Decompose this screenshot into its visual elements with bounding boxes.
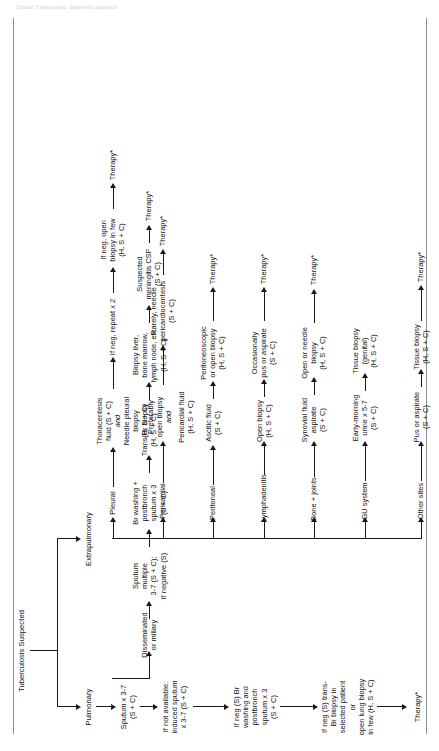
conn-spine-gu (365, 521, 366, 539)
node-d6-therapy: Therapy* (144, 191, 153, 221)
arrow-pl3-pl4 (110, 183, 116, 188)
conn-pl2-pl3 (113, 271, 114, 293)
arrow-p2-p3 (224, 704, 229, 710)
conn-ly0-ly1 (264, 445, 265, 475)
arrow-pe0-pe1 (210, 445, 216, 450)
extrapulmonary-spine (112, 538, 422, 539)
branch-diss-stem-h (149, 655, 150, 679)
trunk-split (57, 539, 58, 707)
arrow-pl0-pl1 (110, 447, 116, 452)
node-pc2: Rarely, needle pericardiocentesis (S + C… (149, 281, 177, 341)
arrow-pl1-pl2 (110, 357, 116, 362)
arrow-pulmonary (76, 704, 81, 710)
conn-pc1-pc2 (163, 349, 164, 385)
figure-page: Tuberculosis Suspected Pulmonary Extrapu… (0, 0, 439, 751)
node-bj1: Synovial fluid aspirate (S + C) (300, 398, 328, 442)
arrow-p1-p2 (153, 704, 158, 710)
conn-pc0-pc1 (163, 445, 164, 483)
conn-bj0-bj1 (314, 445, 315, 477)
arrow-pc0-pc1 (160, 441, 166, 446)
node-pl2: If neg, repeat x 2 (108, 299, 117, 355)
node-os3-therapy: Therapy* (416, 252, 425, 282)
conn-ly1-ly2 (264, 383, 265, 397)
node-bj2: Open or needle biopsy (H, S + C) (300, 327, 328, 379)
conn-spine-bone (314, 521, 315, 539)
node-pc0: Pericardial (158, 483, 167, 518)
node-pulmonary: Pulmonary (84, 689, 93, 726)
arrow-pc1-pc2 (160, 345, 166, 350)
arrow-pl2-pl3 (110, 267, 116, 272)
conn-p2-p3 (193, 706, 225, 707)
arrow-d0-d1 (146, 601, 152, 606)
node-pc1c: Pericardial fluid (H, S + C) (177, 391, 195, 442)
trunk-stem (30, 650, 58, 651)
conn-pe2-pe3 (213, 291, 214, 321)
arrow-p3-p4 (313, 704, 318, 710)
conn-p3-p4 (280, 706, 314, 707)
node-pl1a: Thoracentesis fluid (S + C) (95, 397, 113, 444)
arrow-p4-p5 (402, 704, 407, 710)
node-d0: Disseminated or miliary (140, 612, 158, 657)
arrow-os2-os3 (418, 285, 424, 290)
node-os1: Pus or aspirate (S + C) (412, 392, 430, 442)
arrow-d5-d6 (146, 225, 152, 230)
conn-bj2-bj3 (314, 293, 315, 323)
figure-caption-faint: Clinical Tuberculosis: diagnostic approa… (16, 4, 439, 14)
conn-spine-pericardial (163, 521, 164, 539)
arrow-extrapulmonary (76, 536, 81, 542)
arrow-pul-p1 (111, 704, 116, 710)
node-ly1: Open biopsy (H, S + C) (255, 400, 273, 442)
conn-d0-d1 (149, 605, 150, 619)
arrow-pc2-pc3 (160, 249, 166, 254)
conn-spine-other (421, 521, 422, 539)
flowchart-canvas: Tuberculosis Suspected Pulmonary Extrapu… (0, 0, 439, 751)
arrow-pleural (110, 517, 116, 522)
conn-spine-lymphadenitis (264, 521, 265, 539)
arrow-d3-d4 (146, 382, 152, 387)
conn-pul-p1 (96, 706, 112, 707)
node-gu0: GU system (360, 483, 369, 520)
conn-os2-os3 (421, 289, 422, 321)
node-os0: Other sites (416, 483, 425, 519)
conn-pl0-pl1 (113, 451, 114, 487)
conn-pl3-pl4 (113, 187, 114, 209)
node-pc1b-and: and (164, 411, 173, 423)
node-ly0: Lymphadenitis (259, 474, 268, 522)
conn-pl1-pl2 (113, 361, 114, 389)
node-pe2: Peritoneoscopic or open biopsy (H, S + C… (199, 326, 227, 379)
conn-ly2-ly3 (264, 291, 265, 321)
arrow-pe2-pe3 (210, 287, 216, 292)
conn-p1-p2 (140, 706, 154, 707)
node-pl0: Pleural (108, 491, 117, 514)
node-p4: If neg (S) trans- Br biopsy in selected … (320, 679, 375, 736)
conn-pe0-pe1 (213, 449, 214, 485)
conn-pe1-pe2 (213, 385, 214, 399)
conn-gu0-gu1 (365, 445, 366, 481)
node-bj0: Bone + joints (309, 477, 318, 521)
node-root: Tuberculosis Suspected (17, 610, 26, 692)
node-pc1a: Preferably open biopsy (146, 397, 164, 437)
arrow-gu0-gu1 (362, 441, 368, 446)
node-ly2: Occasionally pus or aspirate (S + C) (250, 328, 278, 378)
conn-spine-peritoneal (213, 521, 214, 539)
conn-gu1-gu2 (365, 377, 366, 391)
node-os2: Tissue biopsy (H, S + C) (412, 324, 430, 370)
node-bj3-therapy: Therapy* (309, 255, 318, 285)
conn-os1-os2 (421, 373, 422, 387)
node-pc3-therapy: Therapy* (158, 216, 167, 246)
conn-pc2-pc3 (163, 253, 164, 275)
node-pe1: Ascitic fluid (S + C) (204, 404, 222, 442)
node-p2: If not available: induced sputum x 3-7 (… (161, 681, 189, 734)
conn-spine-pleural (113, 521, 114, 539)
node-p1: Sputum x 3-7 (S + C) (119, 685, 137, 730)
arrow-ly1-ly2 (261, 379, 267, 384)
node-p5-therapy: Therapy* (413, 692, 422, 722)
arrow-d1-d2 (146, 529, 152, 534)
node-extrapulmonary: Extrapulmonary (84, 512, 93, 566)
conn-bj1-bj2 (314, 381, 315, 395)
node-pl3: If neg, open biopsy in few (H, S + C) (99, 218, 127, 261)
arrow-bj2-bj3 (311, 289, 317, 294)
stem-extrapulmonary (57, 538, 77, 539)
node-d1: Sputum multiple 3-7 (S + C); if negative… (131, 553, 168, 599)
conn-d2-d3 (149, 459, 150, 473)
